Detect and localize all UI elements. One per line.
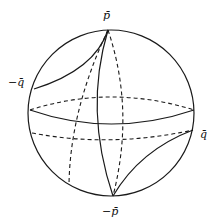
equator-front <box>30 110 194 124</box>
label-q: q̄ <box>200 128 207 141</box>
meridian-front <box>97 30 113 196</box>
sphere-diagram: p̄ −p̄ −q̄ q̄ <box>0 0 214 224</box>
meridian-back-right <box>108 30 123 196</box>
label-minus-p: −p̄ <box>102 205 119 218</box>
label-p: p̄ <box>103 9 110 22</box>
geodesic-minus-p-to-q <box>113 130 193 196</box>
outer-circle <box>28 30 194 196</box>
geodesic-p-to-minus-q <box>34 30 108 89</box>
lower-parallel <box>32 130 193 140</box>
equator-back <box>30 97 194 110</box>
label-minus-q: −q̄ <box>8 76 24 89</box>
